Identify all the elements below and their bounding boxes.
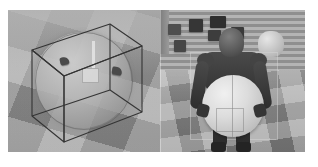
robot-head <box>219 28 244 57</box>
panel-divider <box>160 10 161 152</box>
panel-wireframe-bounding-box-view <box>8 10 160 152</box>
ball-seam-panel <box>216 108 244 132</box>
robot-foot-right <box>236 142 251 152</box>
robot-foot-left <box>211 142 226 152</box>
wireframe-cube <box>26 16 148 146</box>
humanoid-robot <box>180 28 284 152</box>
background-box-c <box>210 16 226 28</box>
panel-humanoid-carrying-ball-view <box>160 10 305 152</box>
figure-container <box>8 10 305 152</box>
